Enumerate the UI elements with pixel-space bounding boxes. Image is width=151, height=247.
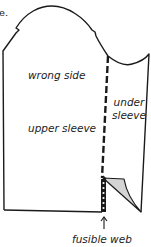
cropped-caption-text: e. [0, 8, 8, 18]
label-under-sleeve-line2: sleeve [111, 110, 147, 121]
fold-seam-line [102, 56, 108, 178]
label-fusible-web: fusible web [72, 234, 132, 245]
label-under-sleeve-line1: under [111, 97, 147, 108]
folded-corner [103, 178, 141, 212]
upper-sleeve-outline [3, 6, 108, 210]
label-upper-sleeve: upper sleeve [28, 123, 96, 134]
upper-sleeve-hem [4, 210, 102, 212]
arrow-up-icon [101, 217, 107, 229]
label-wrong-side: wrong side [28, 70, 86, 81]
